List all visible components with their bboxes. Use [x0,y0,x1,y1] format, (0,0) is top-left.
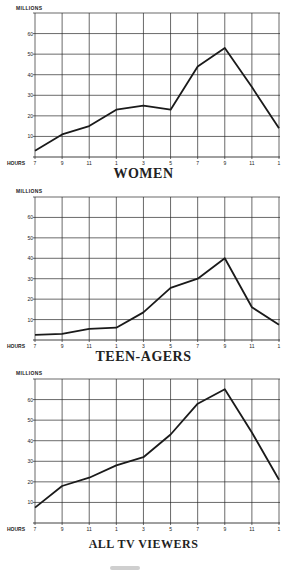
y-tick-label: 20 [19,479,33,485]
x-tick-label: 9 [56,526,68,532]
x-tick-label: 11 [83,526,95,532]
chart-title: ALL TV VIEWERS [0,537,287,552]
y-tick-label: 10 [19,499,33,505]
x-tick-label: 7 [192,526,204,532]
x-axis-label: HOURS [7,526,25,532]
x-tick-label: 3 [137,526,149,532]
chart-panel-2: MILLIONS102030405060HOURS791113579111ALL… [0,0,287,573]
y-axis-label: MILLIONS [16,370,42,376]
x-tick-label: 11 [246,526,258,532]
scan-smudge [110,566,140,570]
y-tick-label: 40 [19,438,33,444]
x-tick-label: 7 [29,526,41,532]
y-tick-label: 60 [19,397,33,403]
x-tick-label: 1 [273,526,285,532]
line-chart [0,0,287,573]
x-tick-label: 9 [219,526,231,532]
y-tick-label: 30 [19,458,33,464]
y-tick-label: 50 [19,417,33,423]
x-tick-label: 1 [110,526,122,532]
data-line [35,389,279,507]
x-tick-label: 5 [165,526,177,532]
